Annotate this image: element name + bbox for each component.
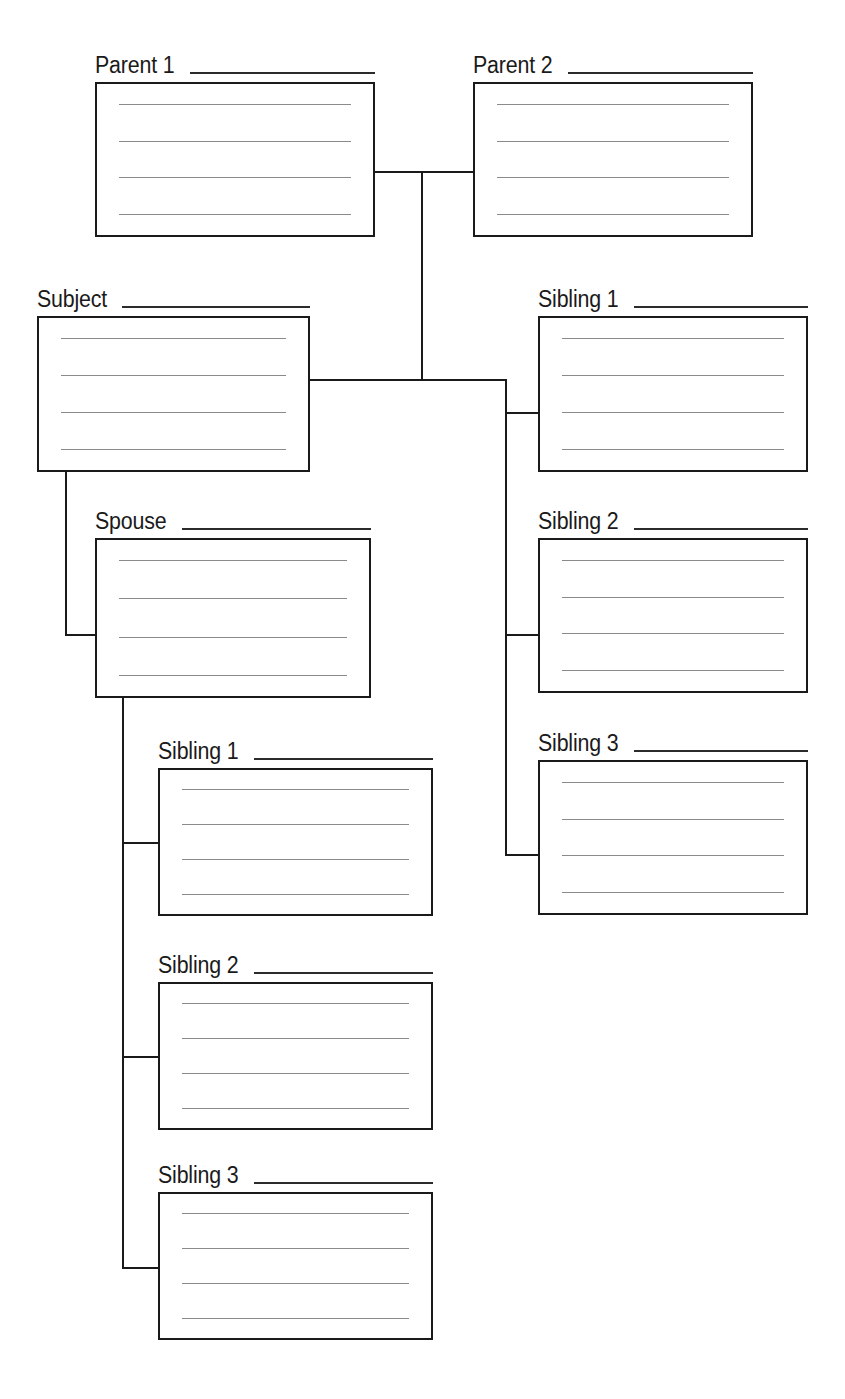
entry-sibling-right-2: Sibling 2 — [538, 538, 808, 693]
writing-line[interactable] — [61, 449, 286, 450]
writing-line[interactable] — [497, 214, 729, 215]
writing-line[interactable] — [61, 412, 286, 413]
connector-child-3-stub — [122, 1267, 160, 1269]
writing-line[interactable] — [119, 104, 351, 105]
label-child-2-rule — [254, 972, 433, 974]
label-sibling-right-1: Sibling 1 — [538, 286, 808, 312]
writing-line[interactable] — [497, 104, 729, 105]
connector-spouse-stub — [65, 634, 97, 636]
label-child-3: Sibling 3 — [158, 1162, 433, 1188]
connector-right-sibling-3-stub — [505, 854, 540, 856]
connector-child-2-stub — [122, 1056, 160, 1058]
writing-line[interactable] — [562, 449, 784, 450]
writing-line[interactable] — [562, 633, 784, 634]
writing-line[interactable] — [119, 598, 347, 599]
writing-line[interactable] — [61, 375, 286, 376]
card-parent-2[interactable] — [473, 82, 753, 237]
writing-line[interactable] — [119, 177, 351, 178]
label-parent-1-rule — [190, 72, 375, 74]
writing-line[interactable] — [497, 177, 729, 178]
label-spouse-text: Spouse — [95, 508, 176, 534]
label-parent-1-text: Parent 1 — [95, 52, 184, 78]
card-spouse-lines — [119, 560, 347, 675]
writing-line[interactable] — [562, 412, 784, 413]
card-subject[interactable] — [37, 316, 310, 472]
writing-line[interactable] — [562, 855, 784, 856]
label-child-3-text: Sibling 3 — [158, 1162, 248, 1188]
card-child-1[interactable] — [158, 768, 433, 916]
writing-line[interactable] — [497, 141, 729, 142]
card-sibling-right-1[interactable] — [538, 316, 808, 472]
label-parent-2: Parent 2 — [473, 52, 753, 78]
entry-parent-1: Parent 1 — [95, 82, 375, 237]
entry-sibling-right-3: Sibling 3 — [538, 760, 808, 915]
label-sibling-right-3-rule — [634, 750, 808, 752]
connector-parents-descent — [421, 171, 423, 381]
writing-line[interactable] — [562, 375, 784, 376]
label-sibling-right-1-text: Sibling 1 — [538, 286, 628, 312]
label-subject-rule — [122, 306, 310, 308]
writing-line[interactable] — [182, 1248, 409, 1249]
connector-parents-marriage — [375, 171, 473, 173]
card-sibling-right-2[interactable] — [538, 538, 808, 693]
connector-right-sibling-spine — [505, 379, 507, 856]
label-sibling-right-2-text: Sibling 2 — [538, 508, 628, 534]
writing-line[interactable] — [119, 214, 351, 215]
writing-line[interactable] — [182, 1318, 409, 1319]
writing-line[interactable] — [119, 141, 351, 142]
writing-line[interactable] — [182, 1038, 409, 1039]
writing-line[interactable] — [562, 597, 784, 598]
connector-subject-to-spouse — [65, 470, 67, 636]
card-subject-lines — [61, 338, 286, 450]
writing-line[interactable] — [182, 824, 409, 825]
family-tree-worksheet: Parent 1 Parent 2 — [0, 0, 845, 1399]
entry-sibling-right-1: Sibling 1 — [538, 316, 808, 472]
entry-subject: Subject — [37, 316, 310, 472]
writing-line[interactable] — [182, 789, 409, 790]
card-sibling-right-1-lines — [562, 338, 784, 450]
card-child-1-lines — [182, 789, 409, 896]
writing-line[interactable] — [182, 1213, 409, 1214]
writing-line[interactable] — [61, 338, 286, 339]
label-child-3-rule — [254, 1182, 433, 1184]
card-child-2-lines — [182, 1003, 409, 1110]
card-sibling-right-3-lines — [562, 782, 784, 894]
writing-line[interactable] — [182, 1283, 409, 1284]
label-child-2: Sibling 2 — [158, 952, 433, 978]
label-parent-2-rule — [568, 72, 753, 74]
writing-line[interactable] — [562, 892, 784, 893]
card-sibling-right-3[interactable] — [538, 760, 808, 915]
label-child-1: Sibling 1 — [158, 738, 433, 764]
label-subject-text: Subject — [37, 286, 116, 312]
connector-child-1-stub — [122, 842, 160, 844]
entry-spouse: Spouse — [95, 538, 371, 698]
label-sibling-right-3-text: Sibling 3 — [538, 730, 628, 756]
writing-line[interactable] — [119, 675, 347, 676]
label-subject: Subject — [37, 286, 310, 312]
writing-line[interactable] — [562, 560, 784, 561]
card-spouse[interactable] — [95, 538, 371, 698]
card-parent-1[interactable] — [95, 82, 375, 237]
card-child-2[interactable] — [158, 982, 433, 1130]
writing-line[interactable] — [182, 894, 409, 895]
writing-line[interactable] — [562, 819, 784, 820]
connector-right-sibling-2-stub — [505, 634, 540, 636]
writing-line[interactable] — [182, 1108, 409, 1109]
entry-parent-2: Parent 2 — [473, 82, 753, 237]
label-parent-2-text: Parent 2 — [473, 52, 562, 78]
entry-child-3: Sibling 3 — [158, 1192, 433, 1340]
entry-child-1: Sibling 1 — [158, 768, 433, 916]
writing-line[interactable] — [119, 560, 347, 561]
writing-line[interactable] — [182, 1003, 409, 1004]
card-child-3[interactable] — [158, 1192, 433, 1340]
card-parent-1-lines — [119, 104, 351, 216]
writing-line[interactable] — [182, 859, 409, 860]
writing-line[interactable] — [182, 1073, 409, 1074]
card-child-3-lines — [182, 1213, 409, 1320]
label-spouse-rule — [182, 528, 371, 530]
writing-line[interactable] — [562, 782, 784, 783]
writing-line[interactable] — [562, 670, 784, 671]
label-parent-1: Parent 1 — [95, 52, 375, 78]
writing-line[interactable] — [119, 637, 347, 638]
writing-line[interactable] — [562, 338, 784, 339]
